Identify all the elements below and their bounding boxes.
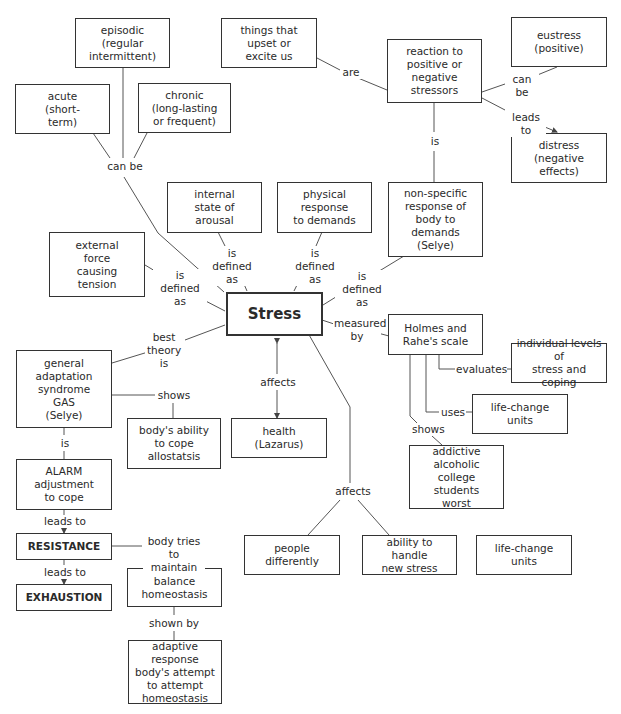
link-body-tries-to-maintain: body tries to maintain xyxy=(143,535,205,574)
node-episodic: episodic (regular intermittent) xyxy=(75,18,170,68)
node-reaction-to-stressors: reaction to positive or negative stresso… xyxy=(387,39,482,103)
node-life-change-units-2: life-change units xyxy=(476,535,572,575)
link-shows-addictive: shows xyxy=(411,423,445,436)
link-affects-health: affects xyxy=(258,376,298,389)
link-defined-external: is defined as xyxy=(153,269,207,308)
node-acute: acute (short- term) xyxy=(15,84,110,134)
link-defined-internal: is defined as xyxy=(205,247,259,286)
node-alarm: ALARM adjustment to cope xyxy=(16,459,112,510)
link-leads-to-distress: leads to xyxy=(506,111,546,137)
node-holmes-rahe-scale: Holmes and Rahe's scale xyxy=(388,314,483,355)
node-eustress: eustress (positive) xyxy=(511,17,607,67)
link-measured-by: measured by xyxy=(333,317,381,343)
reaction-text: reaction to positive or negative stresso… xyxy=(406,45,463,97)
node-gas: general adaptation syndrome GAS (Selye) xyxy=(16,350,112,428)
node-individual-levels: individual levels of stress and coping xyxy=(511,343,607,383)
link-uses: uses xyxy=(440,406,466,419)
link-are: are xyxy=(340,66,362,79)
reaction-label: reaction to positive or negative stresso… xyxy=(406,45,463,96)
link-leads-to-exhaustion: leads to xyxy=(43,566,87,579)
node-external-force: external force causing tension xyxy=(49,232,145,297)
link-defined-nonspecific: is defined as xyxy=(335,270,389,309)
node-addictive: addictive alcoholic college students wor… xyxy=(409,445,504,509)
node-health: health (Lazarus) xyxy=(231,418,327,458)
link-best-theory: best theory is xyxy=(145,331,183,370)
node-distress: distress (negative effects) xyxy=(511,133,607,183)
node-nonspecific-response: non-specific response of body to demands… xyxy=(388,182,483,257)
node-internal-arousal: internal state of arousal xyxy=(167,182,262,233)
link-shows-allostasis: shows xyxy=(155,389,193,402)
node-chronic: chronic (long-lasting or frequent) xyxy=(138,83,231,133)
node-physical-response: physical response to demands xyxy=(277,182,372,233)
link-evaluates: evaluates xyxy=(455,363,507,376)
node-people-differently: people differently xyxy=(244,535,340,575)
node-exhaustion: EXHAUSTION xyxy=(16,584,112,611)
link-defined-physical: is defined as xyxy=(288,247,342,286)
link-shown-by: shown by xyxy=(148,617,200,630)
concept-map: episodic (regular intermittent) things t… xyxy=(0,0,621,714)
link-can-be-eustress: can be xyxy=(505,73,539,99)
node-ability-new-stress: ability to handle new stress xyxy=(362,535,457,575)
node-life-change-units-1: life-change units xyxy=(472,394,568,434)
node-bodys-ability: body's ability to cope allostatsis xyxy=(127,418,221,469)
link-leads-to-resistance: leads to xyxy=(43,515,87,528)
node-resistance: RESISTANCE xyxy=(16,533,112,560)
link-is-alarm: is xyxy=(57,437,73,450)
node-things-that-upset: things that upset or excite us xyxy=(221,18,317,68)
node-adaptive-response: adaptive response body's attempt to atte… xyxy=(128,640,222,704)
node-stress: Stress xyxy=(226,292,323,336)
link-is-nonspecific: is xyxy=(427,135,443,148)
link-can-be-types: can be xyxy=(105,160,145,173)
link-affects-people: affects xyxy=(333,485,373,498)
